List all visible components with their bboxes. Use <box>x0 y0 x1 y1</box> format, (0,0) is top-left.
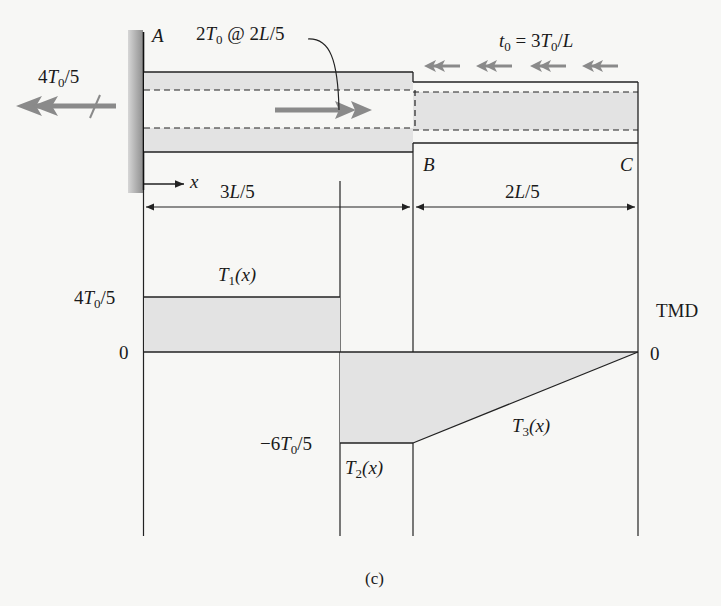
tmd-title: TMD <box>656 301 698 320</box>
tmd-plot <box>144 297 638 443</box>
segment-t1-label: T1(x) <box>218 265 256 284</box>
tmd-segment-t2 <box>340 352 413 443</box>
applied-torque-label: 2T0 @ 2L/5 <box>196 24 284 43</box>
tmd-zero-right-label: 0 <box>650 344 660 363</box>
point-a-label: A <box>152 26 164 45</box>
point-b-label: B <box>423 155 435 174</box>
dimension-ab-label: 3L/5 <box>220 182 255 201</box>
tmd-segment-t1 <box>144 297 340 352</box>
fixed-wall <box>128 30 143 193</box>
shaft-section-bc <box>413 82 638 143</box>
reaction-torque-arrow-icon <box>16 95 116 118</box>
tmd-negative-value-label: −6T0/5 <box>260 434 312 453</box>
figure-caption: (c) <box>365 570 384 587</box>
tmd-zero-left-label: 0 <box>119 343 129 362</box>
point-c-label: C <box>620 155 633 174</box>
dimension-bc-label: 2L/5 <box>505 182 540 201</box>
tmd-positive-value-label: 4T0/5 <box>74 288 115 307</box>
distributed-torque-arrows-icon <box>424 60 618 72</box>
segment-t3-label: T3(x) <box>512 416 550 435</box>
segment-t2-label: T2(x) <box>345 458 383 477</box>
x-axis-label: x <box>190 172 198 191</box>
distributed-torque-label: t0 = 3T0/L <box>499 31 573 50</box>
reaction-torque-label: 4T0/5 <box>38 67 79 86</box>
